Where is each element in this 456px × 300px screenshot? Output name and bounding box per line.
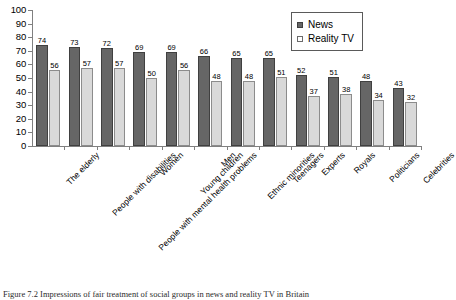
bar-value-label: 56 <box>180 62 188 70</box>
bar-group: 6956 <box>162 10 194 146</box>
bar-value-label: 65 <box>265 50 273 58</box>
legend-swatch-news-icon <box>297 22 303 28</box>
y-axis-tick-label: 30 <box>0 100 26 110</box>
x-axis-label-politicians: Politicians <box>387 150 421 184</box>
legend-label-news: News <box>308 19 333 30</box>
bar-value-label: 34 <box>374 92 382 100</box>
bar-reality-tv: 50 <box>146 78 158 146</box>
bar-value-label: 51 <box>277 69 285 77</box>
bar-value-label: 74 <box>38 37 46 45</box>
bar-group: 4332 <box>389 10 421 146</box>
bar-reality-tv: 32 <box>405 102 417 146</box>
bar-reality-tv: 57 <box>114 68 126 146</box>
bar-news: 73 <box>69 47 81 146</box>
bar-news: 48 <box>360 81 372 146</box>
bar-value-label: 48 <box>245 73 253 81</box>
y-axis-tick-label: 70 <box>0 46 26 56</box>
x-axis-label-royals: Royals <box>351 150 376 175</box>
bar-reality-tv: 34 <box>373 100 385 146</box>
bar-value-label: 50 <box>148 70 156 78</box>
bar-news: 66 <box>198 56 210 146</box>
bar-news: 65 <box>231 58 243 146</box>
bar-news: 43 <box>393 88 405 146</box>
bar-value-label: 66 <box>200 48 208 56</box>
y-axis-tick-label: 60 <box>0 59 26 69</box>
bar-news: 69 <box>133 52 145 146</box>
y-axis-tick-label: 10 <box>0 127 26 137</box>
x-axis-label-experts: Experts <box>320 150 347 177</box>
y-axis-tick-label: 90 <box>0 19 26 29</box>
bar-news: 69 <box>166 52 178 146</box>
legend-label-reality-tv: Reality TV <box>308 33 354 44</box>
bar-group: 6548 <box>227 10 259 146</box>
bar-group: 7456 <box>32 10 64 146</box>
y-axis-tick-label: 80 <box>0 32 26 42</box>
figure-caption: Figure 7.2 Impressions of fair treatment… <box>3 289 427 299</box>
bar-value-label: 57 <box>83 60 91 68</box>
y-axis-tick-label: 20 <box>0 114 26 124</box>
bar-group: 7257 <box>97 10 129 146</box>
bar-group: 7357 <box>64 10 96 146</box>
bar-value-label: 48 <box>212 73 220 81</box>
bar-value-label: 56 <box>50 62 58 70</box>
bar-news: 52 <box>296 75 308 146</box>
bar-news: 72 <box>101 48 113 146</box>
x-axis-label-ethnic-minorities: Ethnic minorities <box>265 150 316 201</box>
y-axis-tick <box>28 146 33 147</box>
bar-reality-tv: 51 <box>276 77 288 146</box>
bar-reality-tv: 56 <box>178 70 190 146</box>
bar-reality-tv: 57 <box>81 68 93 146</box>
bar-value-label: 57 <box>115 60 123 68</box>
bar-reality-tv: 48 <box>243 81 255 146</box>
x-axis-label-the-elderly: The elderly <box>64 150 101 187</box>
bar-reality-tv: 56 <box>49 70 61 146</box>
bar-value-label: 43 <box>394 80 402 88</box>
bar-news: 51 <box>328 77 340 146</box>
bar-value-label: 32 <box>407 94 415 102</box>
legend-item-reality-tv: Reality TV <box>297 32 354 45</box>
bar-value-label: 72 <box>103 40 111 48</box>
bar-news: 65 <box>263 58 275 146</box>
bar-value-label: 69 <box>167 44 175 52</box>
bar-value-label: 69 <box>135 44 143 52</box>
bar-value-label: 37 <box>310 88 318 96</box>
bar-value-label: 51 <box>330 69 338 77</box>
y-axis-tick-label: 100 <box>0 5 26 15</box>
bar-value-label: 52 <box>297 67 305 75</box>
bar-reality-tv: 38 <box>340 94 352 146</box>
bar-group: 6648 <box>194 10 226 146</box>
bar-news: 74 <box>36 45 48 146</box>
bar-value-label: 48 <box>362 73 370 81</box>
bar-group: 6551 <box>259 10 291 146</box>
y-axis-tick-label: 40 <box>0 87 26 97</box>
bar-group: 6950 <box>129 10 161 146</box>
chart-legend: News Reality TV <box>291 12 363 51</box>
bar-value-label: 73 <box>70 39 78 47</box>
x-axis-category-labels: The elderlyPeople with disabilitiesPeopl… <box>0 150 427 285</box>
bar-value-label: 65 <box>232 50 240 58</box>
x-axis-label-celebrities: Celebrities <box>420 150 455 185</box>
y-axis-tick-label: 50 <box>0 73 26 83</box>
bar-value-label: 38 <box>342 86 350 94</box>
legend-swatch-reality-tv-icon <box>297 36 303 42</box>
bar-reality-tv: 48 <box>211 81 223 146</box>
bar-reality-tv: 37 <box>308 96 320 146</box>
legend-item-news: News <box>297 18 354 31</box>
